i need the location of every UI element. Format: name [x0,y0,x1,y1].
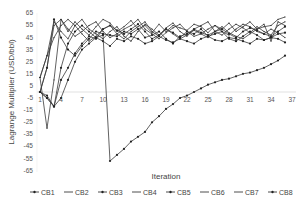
data-point-marker [187,31,188,32]
data-point-marker [144,30,146,32]
data-point-marker [284,55,286,57]
data-point-marker [166,31,167,32]
data-point-marker [285,21,286,22]
data-point-marker [40,77,41,78]
data-point-marker [257,29,258,30]
y-tick-label: 15 [26,70,34,77]
data-point-marker [60,79,62,81]
data-point-marker [116,154,118,156]
data-point-marker [152,32,153,33]
x-tick-label: 25 [204,96,212,103]
data-point-marker [116,38,118,40]
y-tick-label: -35 [24,130,34,137]
x-tick-label: 31 [246,96,254,103]
data-point-marker [95,37,97,39]
data-point-marker [242,73,244,75]
data-point-marker [187,36,188,37]
data-point-marker [117,26,118,27]
data-point-marker [130,35,132,37]
data-point-marker [193,91,195,93]
legend-item-cb4: CB4 [132,189,157,196]
data-point-marker [208,21,209,22]
data-point-marker [46,95,48,97]
legend-item-cb1: CB1 [30,189,55,196]
data-point-marker [214,39,216,41]
data-point-marker [285,17,286,18]
data-point-marker [88,30,90,32]
data-point-marker [236,31,237,32]
data-point-marker [159,24,160,25]
data-point-marker [138,31,139,32]
data-point-marker [180,38,181,39]
data-point-marker [60,97,62,99]
data-point-marker [123,148,125,150]
data-point-marker [81,49,83,51]
data-point-marker [89,41,90,42]
data-point-marker [131,25,132,26]
data-point-marker [250,26,251,27]
data-point-marker [53,18,55,20]
data-point-marker [208,29,209,30]
data-point-marker [228,78,230,80]
data-point-marker [96,33,97,34]
data-point-marker [103,19,104,20]
series-group [39,17,286,163]
data-point-marker [235,38,237,40]
data-point-marker [158,30,160,32]
data-point-marker [256,34,258,36]
legend-marker-icon [169,191,171,193]
data-point-marker [54,37,55,38]
data-point-marker [67,79,69,81]
data-point-marker [250,33,251,34]
data-point-marker [74,30,76,32]
data-point-marker [215,31,216,32]
data-point-marker [130,141,132,143]
data-point-marker [61,31,62,32]
data-point-marker [229,32,230,33]
legend-marker-icon [33,191,35,193]
data-point-marker [278,21,279,22]
data-point-marker [89,29,90,30]
data-point-marker [124,38,125,39]
data-point-marker [131,31,132,32]
data-point-marker [54,79,55,80]
data-point-marker [242,35,244,37]
data-point-marker [243,27,244,28]
data-point-marker [166,27,167,28]
series-line [40,24,285,106]
data-point-marker [145,25,146,26]
data-point-marker [214,33,216,35]
data-point-marker [173,33,174,34]
data-point-marker [88,43,90,45]
data-point-marker [222,26,223,27]
data-point-marker [95,30,97,32]
data-point-marker [201,25,202,26]
data-point-marker [47,67,48,68]
data-point-marker [250,21,251,22]
data-point-marker [277,59,279,61]
data-point-marker [200,38,202,40]
data-point-marker [102,34,104,36]
data-point-marker [221,40,223,42]
data-point-marker [194,24,195,25]
data-point-marker [172,41,174,43]
data-point-marker [74,52,76,54]
series-cb8 [39,24,286,162]
data-point-marker [243,38,244,39]
data-point-marker [123,40,125,42]
x-tick-label: 22 [183,96,191,103]
data-point-marker [208,32,209,33]
data-point-marker [130,33,132,35]
legend-marker-icon [101,191,103,193]
data-point-marker [256,69,258,71]
data-point-marker [151,121,153,123]
line-chart: 6555453525155-5-15-25-35-45-55-65 147101… [0,0,306,208]
data-point-marker [144,37,146,39]
y-tick-label: -15 [24,106,34,113]
data-point-marker [242,40,244,42]
data-point-marker [159,36,160,37]
data-point-marker [166,32,167,33]
data-point-marker [54,25,55,26]
data-point-marker [285,37,286,38]
data-point-marker [187,35,188,36]
